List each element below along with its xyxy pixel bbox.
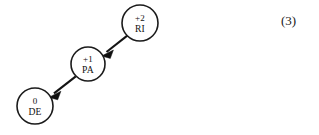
- edge-ri-to-pa: [102, 35, 128, 58]
- node-ri-label: RI: [135, 23, 145, 34]
- node-pa-label: PA: [82, 64, 94, 75]
- node-de-value: 0: [33, 96, 38, 106]
- edge-line-pa-de: [54, 76, 76, 93]
- node-ri-value: +2: [135, 13, 145, 23]
- node-de-label: DE: [28, 106, 41, 117]
- edge-pa-to-de: [49, 76, 76, 100]
- node-pa-value: +1: [83, 54, 93, 64]
- node-link-graph: +2 RI +1 PA 0 DE: [0, 0, 319, 135]
- diagram-canvas: +2 RI +1 PA 0 DE (3): [0, 0, 319, 135]
- equation-number: (3): [281, 13, 296, 29]
- node-ri[interactable]: +2 RI: [122, 5, 158, 41]
- node-pa[interactable]: +1 PA: [71, 47, 105, 81]
- node-de[interactable]: 0 DE: [17, 88, 53, 124]
- edge-line-ri-pa: [107, 35, 128, 52]
